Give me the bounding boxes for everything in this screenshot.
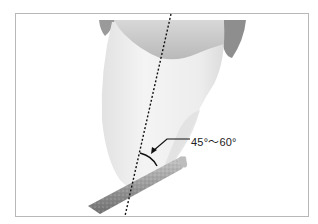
tooth-diagram [0,0,318,224]
right-gingiva [222,20,246,58]
angle-label: 45°～60° [191,133,237,149]
